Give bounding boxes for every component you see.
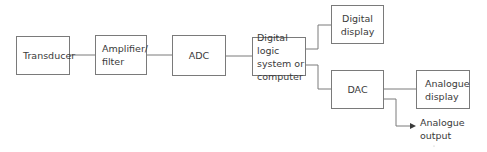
block-analogue-display: Analogue display <box>416 70 470 109</box>
block-label: Amplifier/ filter <box>102 42 148 68</box>
arrowhead-icon <box>410 123 416 129</box>
block-digital-logic: Digital logic system or computer <box>252 37 306 76</box>
block-dac: DAC <box>331 70 384 109</box>
block-amplifier-filter: Amplifier/ filter <box>95 35 147 75</box>
block-adc: ADC <box>172 35 226 76</box>
connector-dac-analogue-output <box>384 99 410 126</box>
connector-lines <box>0 0 487 152</box>
block-label: Digital display <box>341 12 375 38</box>
block-transducer: Transducer <box>16 36 70 75</box>
connector-logic-dac <box>306 65 331 89</box>
stray-dot <box>433 145 434 146</box>
block-digital-display: Digital display <box>331 5 384 44</box>
block-label: DAC <box>347 83 367 96</box>
block-label: ADC <box>189 49 209 62</box>
block-label: Transducer <box>23 49 75 62</box>
analogue-output-label: Analogue output <box>420 116 465 142</box>
block-label: Digital logic system or computer <box>257 31 305 83</box>
block-label: Analogue display <box>425 77 470 103</box>
connector-logic-digital-display <box>306 25 331 49</box>
